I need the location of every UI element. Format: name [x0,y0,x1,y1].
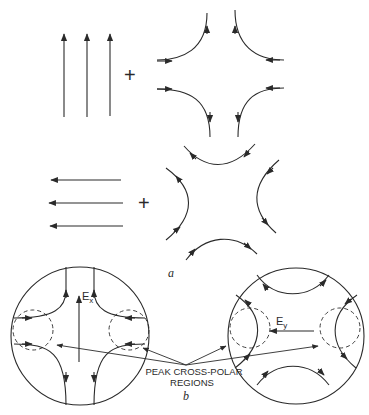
field-line [14,344,66,405]
field-line [235,10,284,60]
field-line [184,144,255,165]
arrowhead-icon [244,243,251,249]
aperture-ey: Ey [228,268,364,404]
arrowhead-icon [341,353,347,359]
arrowhead-icon [262,218,268,225]
peak-region-dashed [230,308,270,348]
arrowhead-icon [174,227,180,232]
part-a-label: a [168,266,174,280]
quadrupole-diagonal [166,144,279,260]
annotation-line-2: REGIONS [170,377,214,388]
field-line [257,275,329,294]
ey-label: Ey [276,315,287,330]
quadrupole-axial [157,10,284,137]
field-line [157,89,210,137]
aperture-ex: Ex [11,267,149,405]
field-line [157,13,207,60]
arrowhead-icon [190,249,195,255]
arrowhead-icon [176,176,180,181]
field-line [14,267,66,318]
plus-sign: + [138,192,150,214]
aperture-circle [228,268,364,404]
field-line [186,239,257,260]
ex-label: Ex [82,290,93,305]
leader-line [57,345,186,365]
field-line [94,267,145,318]
annotation-leaders [57,345,318,365]
peak-region-dashed [320,308,360,348]
field-line [335,295,357,368]
aperture-circle [11,267,149,405]
part-b-label: b [183,389,189,403]
field-line [257,160,279,233]
uniform-field-left [49,180,123,226]
field-line [238,88,284,137]
plus-sign: + [124,64,136,86]
arrowhead-icon [244,354,250,360]
uniform-field-up [64,34,110,117]
field-diagram: + + [0,0,369,415]
arrowhead-icon [345,299,351,304]
leader-line [143,348,186,365]
annotation-line-1: PEAK CROSS-POLAR [145,366,242,377]
